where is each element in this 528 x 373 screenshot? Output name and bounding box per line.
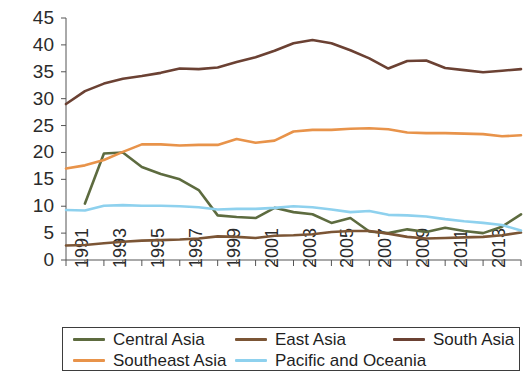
legend-item[interactable]: South Asia — [393, 331, 514, 348]
legend-item[interactable]: Central Asia — [73, 331, 205, 348]
legend-item[interactable]: Southeast Asia — [73, 352, 226, 369]
legend-swatch-icon — [393, 338, 425, 341]
series-line-south-asia — [66, 40, 521, 104]
legend-swatch-icon — [73, 359, 105, 362]
legend-item[interactable]: East Asia — [235, 331, 346, 348]
legend-row: Central AsiaEast AsiaSouth Asia — [63, 328, 519, 350]
legend-row: Southeast AsiaPacific and Oceania — [63, 349, 519, 371]
legend-label: Central Asia — [113, 331, 205, 348]
legend-label: South Asia — [433, 331, 514, 348]
legend-label: Southeast Asia — [113, 352, 226, 369]
legend-label: East Asia — [275, 331, 346, 348]
line-chart: 051015202530354045 199119931995199719992… — [0, 0, 528, 373]
legend-swatch-icon — [235, 338, 267, 341]
legend-item[interactable]: Pacific and Oceania — [235, 352, 426, 369]
legend-swatch-icon — [73, 338, 105, 341]
legend-swatch-icon — [235, 359, 267, 362]
plot-area — [0, 0, 528, 373]
series-line-east-asia — [66, 231, 521, 246]
series-line-pacific-and-oceania — [66, 205, 521, 230]
legend-label: Pacific and Oceania — [275, 352, 426, 369]
chart-legend: Central AsiaEast AsiaSouth Asia Southeas… — [62, 327, 520, 371]
